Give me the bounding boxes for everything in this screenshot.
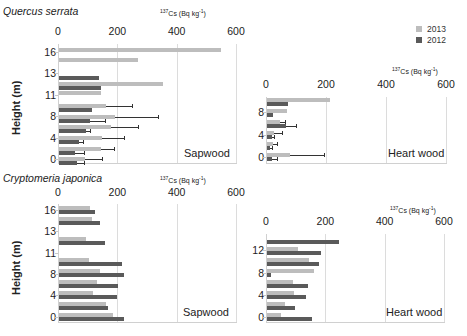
error-bar bbox=[290, 155, 324, 156]
error-bar bbox=[90, 121, 105, 122]
y-tick-label: 4 bbox=[34, 289, 56, 301]
bar-2012-h6 bbox=[59, 284, 118, 288]
y-tick-mark bbox=[55, 253, 58, 254]
error-bar bbox=[85, 159, 102, 160]
gridline bbox=[386, 97, 387, 163]
error-bar bbox=[101, 149, 114, 150]
bar-2012-h4 bbox=[267, 295, 306, 299]
error-bar-cap bbox=[272, 146, 273, 150]
y-tick-label: 8 bbox=[34, 110, 56, 122]
error-bar-cap bbox=[277, 157, 278, 161]
bar-2012-h2 bbox=[267, 306, 295, 310]
y-tick-label: 16 bbox=[34, 46, 56, 58]
error-bar bbox=[102, 138, 123, 139]
gridline bbox=[177, 204, 178, 322]
gridline bbox=[236, 204, 237, 322]
error-bar-cap bbox=[158, 115, 159, 119]
species-title: Quercus serrata bbox=[3, 5, 78, 17]
y-tick-mark bbox=[263, 295, 266, 296]
bar-2012-h13 bbox=[59, 76, 99, 80]
bar-2012-h9 bbox=[59, 108, 92, 112]
y-tick-mark bbox=[263, 273, 266, 274]
error-bar bbox=[75, 153, 84, 154]
x-tick-label: 200 bbox=[109, 186, 127, 198]
error-bar-cap bbox=[102, 157, 103, 161]
unit-label: 137Cs (Bq kg-1) bbox=[160, 175, 206, 184]
x-tick-label: 0 bbox=[263, 78, 269, 90]
gridline bbox=[177, 44, 178, 163]
y-tick-label: 12 bbox=[242, 244, 264, 256]
bar-2012-h4 bbox=[59, 140, 79, 144]
bar-2012-h2 bbox=[59, 306, 108, 310]
y-tick-label: 4 bbox=[242, 289, 264, 301]
bar-2012-h12 bbox=[59, 241, 105, 245]
x-tick-label: 400 bbox=[168, 186, 186, 198]
error-bar-cap bbox=[83, 140, 84, 144]
bar-2012-h0 bbox=[59, 317, 124, 321]
tissue-label: Sapwood bbox=[184, 147, 230, 159]
y-tick-label: 11 bbox=[34, 247, 56, 259]
bar-2012-h14 bbox=[267, 240, 339, 244]
error-bar-cap bbox=[84, 151, 85, 155]
y-tick-mark bbox=[263, 135, 266, 136]
bar-2012-h8 bbox=[59, 119, 90, 123]
y-tick-mark bbox=[263, 317, 266, 318]
error-bar-cap bbox=[114, 147, 115, 151]
y-tick-label: 0 bbox=[34, 153, 56, 165]
legend-label-2012: 2012 bbox=[427, 35, 446, 45]
y-tick-label: 0 bbox=[34, 311, 56, 323]
error-bar bbox=[286, 126, 296, 127]
gridline bbox=[446, 97, 447, 163]
bar-2013-h16 bbox=[59, 48, 221, 52]
x-tick-label: 200 bbox=[317, 215, 335, 227]
error-bar-cap bbox=[324, 153, 325, 157]
y-tick-label: 0 bbox=[242, 151, 264, 163]
bar-2012-h6 bbox=[59, 129, 86, 133]
gridline bbox=[325, 234, 326, 322]
x-tick-label: 200 bbox=[109, 25, 127, 37]
y-tick-label: 4 bbox=[242, 129, 264, 141]
y-tick-mark bbox=[263, 250, 266, 251]
y-tick-mark bbox=[55, 116, 58, 117]
legend-item-2013: 2013 bbox=[416, 23, 446, 34]
bar-2012-h16 bbox=[59, 210, 95, 214]
bar-2012-h6 bbox=[267, 284, 308, 288]
y-tick-label: 8 bbox=[242, 106, 264, 118]
gridline bbox=[444, 234, 445, 322]
y-tick-label: 0 bbox=[242, 311, 264, 323]
y-tick-label: 16 bbox=[34, 204, 56, 216]
error-bar-cap bbox=[274, 135, 275, 139]
error-bar-cap bbox=[90, 129, 91, 133]
legend-swatch-2012 bbox=[416, 37, 422, 43]
x-tick-label: 600 bbox=[435, 215, 453, 227]
y-tick-mark bbox=[263, 157, 266, 158]
x-tick-label: 600 bbox=[227, 186, 245, 198]
y-tick-label: 4 bbox=[34, 132, 56, 144]
x-tick-label: 400 bbox=[376, 215, 394, 227]
error-bar bbox=[111, 127, 137, 128]
error-bar bbox=[274, 133, 282, 134]
y-tick-mark bbox=[55, 95, 58, 96]
error-bar-cap bbox=[282, 131, 283, 135]
legend-label-2013: 2013 bbox=[427, 24, 446, 34]
legend-swatch-2013 bbox=[416, 26, 422, 32]
error-bar-cap bbox=[277, 142, 278, 146]
bar-2012-h6 bbox=[267, 124, 286, 128]
bar-2012-h10 bbox=[267, 262, 319, 266]
y-axis-label: Height (m) bbox=[10, 81, 22, 135]
plot-area bbox=[58, 44, 237, 164]
error-bar bbox=[115, 117, 158, 118]
bar-2012-h0 bbox=[59, 161, 77, 165]
y-tick-label: 13 bbox=[34, 225, 56, 237]
error-bar-cap bbox=[296, 124, 297, 128]
x-tick-label: 400 bbox=[377, 78, 395, 90]
bar-2012-h12 bbox=[267, 251, 321, 255]
tissue-label: Heart wood bbox=[386, 306, 442, 318]
error-bar bbox=[106, 106, 132, 107]
y-tick-mark bbox=[263, 112, 266, 113]
unit-label: 137Cs (Bq kg-1) bbox=[392, 66, 438, 75]
y-tick-label: 8 bbox=[242, 267, 264, 279]
error-bar-cap bbox=[138, 125, 139, 129]
y-tick-label: 8 bbox=[34, 268, 56, 280]
error-bar-cap bbox=[132, 104, 133, 108]
